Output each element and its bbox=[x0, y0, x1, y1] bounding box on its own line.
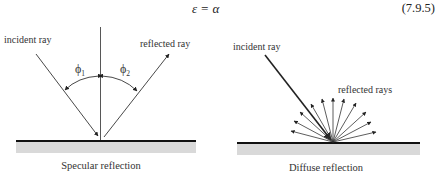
specular-diagram: incident ray reflected ray ϕ1 ϕ2 Specula… bbox=[4, 27, 196, 171]
angle-phi2-label: ϕ2 bbox=[120, 62, 130, 78]
surface-body bbox=[16, 142, 196, 153]
incident-ray bbox=[36, 54, 98, 136]
surface-body bbox=[237, 144, 420, 155]
reflected-ray bbox=[104, 54, 169, 137]
diffuse-caption: Diffuse reflection bbox=[289, 162, 364, 173]
reflection-figure: incident ray reflected ray ϕ1 ϕ2 Specula… bbox=[0, 0, 439, 181]
incident-ray-label: incident ray bbox=[233, 41, 280, 52]
incident-ray-label: incident ray bbox=[4, 34, 51, 45]
specular-caption: Specular reflection bbox=[61, 160, 141, 171]
reflected-ray bbox=[333, 132, 376, 142]
reflected-ray bbox=[333, 99, 344, 142]
reflected-ray-label: reflected ray bbox=[140, 38, 190, 49]
angle-arc-1 bbox=[65, 76, 99, 90]
angle-arc-2 bbox=[102, 76, 137, 91]
angle-phi1-label: ϕ1 bbox=[75, 62, 85, 78]
incident-ray bbox=[265, 55, 331, 140]
reflected-rays-label: reflected rays bbox=[338, 84, 392, 95]
diffuse-diagram: incident ray reflected rays Diffuse refl… bbox=[233, 41, 420, 173]
